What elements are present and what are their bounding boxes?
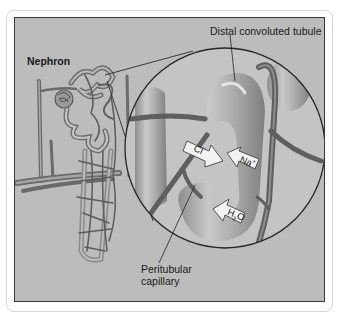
- convoluted-tubules: [66, 68, 113, 151]
- capillary-label-line2: capillary: [141, 275, 180, 287]
- figure-panel: Nephron Distal convoluted tubule Peritub…: [14, 17, 325, 302]
- glomerulus: [55, 90, 73, 108]
- capillary-label-line1: Peritubular: [141, 263, 192, 275]
- distal-tubule-label: Distal convoluted tubule: [210, 25, 322, 37]
- magnified-view: [125, 48, 325, 261]
- nephron-title: Nephron: [27, 55, 70, 67]
